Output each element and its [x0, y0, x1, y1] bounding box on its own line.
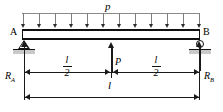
node-label-b: B	[203, 27, 210, 37]
distributed-load-label: p	[105, 1, 111, 12]
reaction-b-label: RB	[204, 71, 214, 84]
beam-diagram-canvas: p A B P l 2 l 2 RA RB l	[0, 0, 223, 112]
point-load-arrowhead-icon	[108, 42, 114, 48]
dimension-arrowhead-right	[194, 94, 199, 100]
dimension-arrowhead-right	[105, 69, 110, 75]
distributed-load-arrowhead-icon	[21, 24, 25, 28]
distributed-load-arrowhead-icon	[165, 24, 169, 28]
reaction-b-subscript: B	[210, 76, 214, 83]
beam-member	[22, 29, 200, 40]
dimension-arrowhead-left	[25, 69, 30, 75]
dimension-line-total-span	[24, 97, 200, 98]
distributed-load-arrowhead-icon	[133, 24, 137, 28]
fraction-denominator: 2	[58, 67, 76, 78]
dimension-arrowhead-right	[194, 69, 199, 75]
dimension-arrowhead-left	[113, 69, 118, 75]
distributed-load-arrowhead-icon	[37, 24, 41, 28]
dimension-label-left-half: l 2	[58, 55, 76, 78]
reaction-a-arrowhead-icon	[21, 41, 27, 47]
reaction-a-subscript: A	[11, 76, 15, 83]
distributed-load-rail	[22, 13, 200, 14]
reaction-b-arrowhead-icon	[196, 41, 202, 47]
dimension-label-total-span: l	[108, 80, 111, 91]
dimension-extension-line-a	[24, 72, 25, 100]
distributed-load-arrowhead-icon	[69, 24, 73, 28]
dimension-arrowhead-left	[25, 94, 30, 100]
distributed-load-arrowhead-icon	[117, 24, 121, 28]
fraction-numerator: l	[147, 55, 165, 65]
distributed-load-arrowhead-icon	[85, 24, 89, 28]
dimension-extension-line-b	[199, 72, 200, 100]
fraction-numerator: l	[58, 55, 76, 65]
point-load-label: P	[115, 57, 121, 67]
distributed-load-arrowhead-icon	[181, 24, 185, 28]
fraction-denominator: 2	[147, 67, 165, 78]
distributed-load-arrowhead-icon	[197, 24, 201, 28]
dimension-label-right-half: l 2	[147, 55, 165, 78]
distributed-load-arrowhead-icon	[53, 24, 57, 28]
node-label-a: A	[10, 27, 17, 37]
distributed-load-arrowhead-icon	[149, 24, 153, 28]
distributed-load-arrowhead-icon	[101, 24, 105, 28]
reaction-a-label: RA	[5, 71, 15, 84]
